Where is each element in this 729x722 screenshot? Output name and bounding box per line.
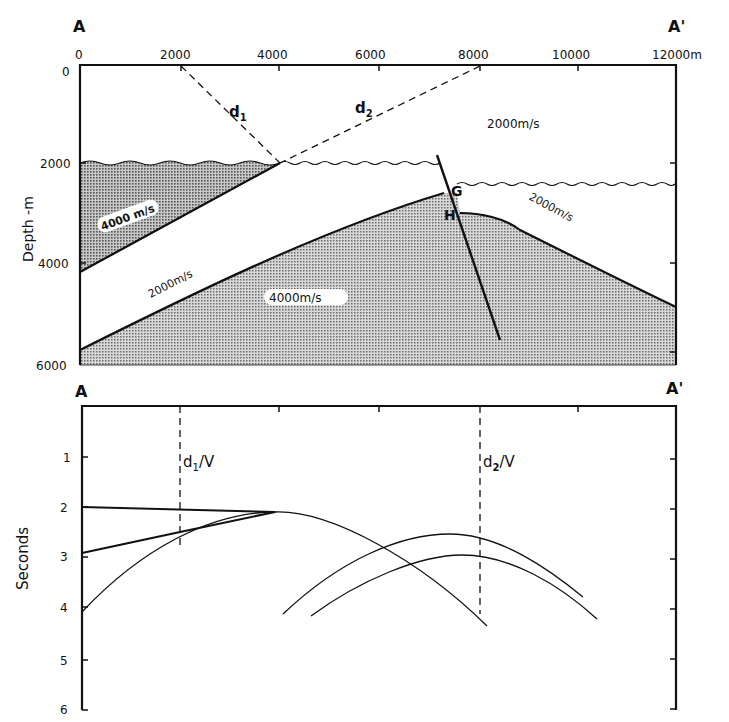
point-label-h: H (444, 207, 456, 223)
event-flat-reflector (82, 507, 275, 512)
diagram-canvas: A A' 0 2000 4000 6000 8000 10000 12000m … (0, 0, 729, 722)
x-tick-8000: 8000 (458, 48, 489, 62)
t-tick-6: 6 (60, 703, 68, 717)
x-tick-4000: 4000 (257, 48, 288, 62)
ray-label-d2: d2 (355, 99, 373, 119)
velocity-label-basement: 4000m/s (269, 291, 322, 305)
depth-axis-label: Depth -m (20, 196, 36, 262)
event-fault-h (311, 555, 597, 619)
y-tick-6000: 6000 (36, 359, 67, 373)
t-tick-4: 4 (60, 601, 68, 615)
event-fault-g (283, 534, 583, 614)
event-wedge-base (82, 512, 275, 553)
x-tick-10000: 10000 (552, 48, 590, 62)
upper-label-a-prime: A' (668, 17, 685, 36)
x-tick-0: 0 (75, 48, 83, 62)
velocity-label-middle: 2000m/s (146, 267, 195, 301)
marker-label-d1v: d1/V (183, 453, 215, 473)
lower-label-a: A (75, 382, 88, 401)
x-tick-12000: 12000m (652, 48, 702, 62)
y-tick-0: 0 (62, 65, 70, 79)
t-tick-5: 5 (60, 654, 68, 668)
point-label-g: G (451, 183, 463, 199)
y-tick-2000: 2000 (40, 157, 71, 171)
velocity-label-right: 2000m/s (527, 190, 576, 224)
t-tick-1: 1 (63, 451, 71, 465)
marker-label-d2v: d2/V (483, 453, 516, 473)
time-section (82, 406, 676, 710)
ray-label-d1: d1 (229, 103, 247, 123)
t-tick-2: 2 (60, 501, 68, 515)
velocity-label-top: 2000m/s (487, 117, 540, 131)
t-tick-3: 3 (60, 550, 68, 564)
lower-label-a-prime: A' (666, 379, 683, 398)
time-axis-label: Seconds (14, 527, 32, 590)
depth-section (80, 65, 676, 365)
x-tick-6000: 6000 (355, 48, 386, 62)
time-axes (82, 406, 676, 710)
y-tick-4000: 4000 (38, 257, 69, 271)
upper-label-a: A (73, 17, 86, 36)
event-diffraction (82, 512, 487, 626)
x-tick-2000: 2000 (160, 48, 191, 62)
unconformity-right (457, 183, 675, 186)
ray-d2 (280, 66, 480, 163)
unconformity-left (280, 162, 440, 165)
